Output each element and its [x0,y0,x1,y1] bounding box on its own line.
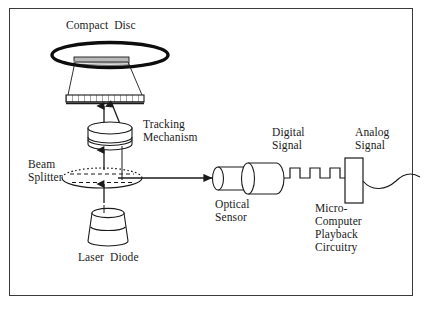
objective-lens-plate [66,95,144,104]
label-optical-sensor: Optical Sensor [215,198,250,224]
beam-lens-return [112,104,120,124]
label-microcomputer-circuitry: Micro- Computer Playback Circuitry [315,202,362,254]
label-beam-splitter: Beam Splitter [28,158,63,184]
tracking-mechanism [88,122,132,150]
label-tracking-mechanism: Tracking Mechanism [143,118,198,144]
label-digital-signal: Digital Signal [272,126,305,152]
laser-diode [88,205,128,246]
label-compact-disc: Compact Disc [66,19,136,32]
diagram-canvas [0,0,424,309]
label-laser-diode: Laser Diode [78,251,139,264]
label-analog-signal: Analog Signal [355,126,389,152]
disc-track-band [74,57,129,65]
optical-sensor [213,163,285,194]
microcomputer-box [345,158,363,203]
compact-disc [52,43,168,68]
digital-square-wave [284,168,347,178]
figure-root: Compact Disc Tracking Mechanism Beam Spl… [0,0,424,309]
analog-sine-wave [363,174,420,189]
